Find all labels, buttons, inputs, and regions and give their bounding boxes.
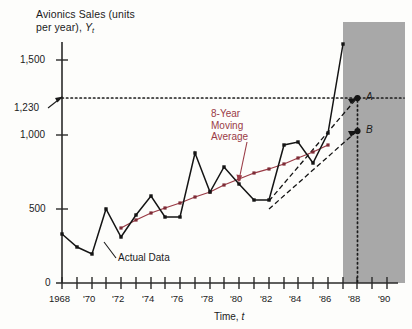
x-tick-label-1976: '76	[171, 293, 183, 304]
actual-data-label-leader	[104, 242, 116, 258]
series-moving-average-markers	[119, 143, 329, 229]
x-tick-label-1982: '82	[260, 293, 272, 304]
x-tick-label-1988: '88	[348, 293, 360, 304]
x-axis-title-text: Time,	[214, 311, 241, 322]
avionics-sales-forecast-chart: Avionics Sales (unitsper year), Yt 1,500…	[0, 0, 412, 329]
y-tick-label-500: 500	[29, 203, 46, 214]
chart-title-variable: Y	[85, 21, 92, 33]
y-tick-label-1500: 1,500	[20, 54, 45, 65]
chart-title-subscript: t	[92, 26, 94, 35]
chart-title: Avionics Sales (unitsper year), Yt	[36, 8, 135, 37]
forecast-point-a-label: A	[366, 91, 373, 102]
x-tick-label-1986: '86	[319, 293, 331, 304]
forecast-point-b-dot	[354, 128, 360, 134]
x-axis-title: Time, t	[214, 311, 244, 322]
x-tick-label-1974: '74	[142, 293, 154, 304]
x-tick-label-1972: '72	[112, 293, 124, 304]
forecast-point-b-label: B	[366, 124, 373, 135]
moving-average-label-leader	[239, 142, 247, 180]
moving-average-annotation-line3: Average	[211, 131, 248, 142]
chart-title-line2: per year),	[36, 21, 85, 33]
x-tick-label-1984: '84	[289, 293, 301, 304]
chart-title-line1: Avionics Sales (units	[36, 8, 135, 20]
x-tick-label-1980: '80	[230, 293, 242, 304]
x-tick-label-1968: 1968	[49, 293, 70, 304]
chart-canvas	[0, 0, 412, 329]
series-actual-data-line	[62, 44, 343, 254]
moving-average-annotation-line1: 8-Year	[211, 108, 240, 119]
x-axis-title-variable: t	[241, 311, 244, 322]
x-tick-label-1970: '70	[83, 293, 95, 304]
actual-data-annotation: Actual Data	[118, 252, 170, 263]
series-actual-data-markers	[60, 42, 344, 255]
y-tick-label-1000: 1,000	[20, 129, 45, 140]
y-tick-label-1230: 1,230	[14, 102, 39, 113]
moving-average-annotation: 8-YearMovingAverage	[211, 108, 248, 143]
x-tick-label-1978: '78	[201, 293, 213, 304]
forecast-shaded-region	[343, 22, 405, 283]
y-tick-label-0: 0	[45, 277, 51, 288]
moving-average-annotation-line2: Moving	[211, 120, 243, 131]
forecast-point-a-dot	[354, 95, 360, 101]
x-tick-label-1990: '90	[378, 293, 390, 304]
